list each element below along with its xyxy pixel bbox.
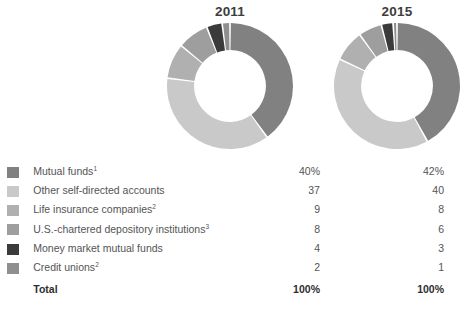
legend-row: Life insurance companies298 (0, 200, 453, 219)
total-value-2011: 100% (215, 277, 327, 299)
legend-color-swatch (7, 186, 19, 197)
value-2015: 3 (333, 239, 453, 258)
value-2011: 4 (215, 239, 327, 258)
legend-label: Other self-directed accounts (33, 181, 214, 200)
legend-color-swatch (7, 205, 19, 216)
legend-label: Mutual funds1 (33, 162, 214, 181)
value-2015: 8 (333, 200, 453, 219)
value-2015: 6 (333, 220, 453, 239)
legend-swatch-cell (0, 181, 33, 200)
donut-segment (334, 60, 427, 149)
total-value-2015: 100% (333, 277, 453, 299)
legend-label: Credit unions2 (33, 258, 214, 277)
legend-color-swatch (7, 224, 19, 235)
total-label: Total (33, 277, 214, 299)
legend-row: Money market mutual funds43 (0, 239, 453, 258)
legend-table-body: Mutual funds140%42%Other self-directed a… (0, 162, 453, 299)
value-2011: 40% (215, 162, 327, 181)
footnote-marker: 2 (95, 261, 99, 268)
value-2015: 42% (333, 162, 453, 181)
legend-color-swatch (7, 244, 19, 255)
donut-segment (394, 23, 397, 50)
donut-charts-row: 2011 2015 (0, 0, 453, 160)
donut-chart-2011: 2011 (155, 4, 305, 156)
legend-swatch-cell (0, 258, 33, 277)
donut-segment (167, 79, 266, 149)
footnote-marker: 3 (205, 222, 209, 229)
legend-color-swatch (7, 263, 19, 274)
legend-swatch-cell (0, 239, 33, 258)
legend-data-table: Mutual funds140%42%Other self-directed a… (0, 162, 453, 299)
legend-label: Money market mutual funds (33, 239, 214, 258)
legend-swatch-cell (0, 200, 33, 219)
value-2011: 37 (215, 181, 327, 200)
value-2011: 2 (215, 258, 327, 277)
legend-label: Life insurance companies2 (33, 200, 214, 219)
donut-chart-2015: 2015 (322, 4, 464, 156)
donut-graphic-2011 (164, 20, 296, 152)
total-swatch-spacer (0, 277, 33, 299)
legend-swatch-cell (0, 162, 33, 181)
legend-swatch-cell (0, 220, 33, 239)
value-2011: 9 (215, 200, 327, 219)
legend-label: U.S.-chartered depository institutions3 (33, 220, 214, 239)
legend-color-swatch (7, 167, 19, 178)
footnote-marker: 1 (93, 165, 97, 172)
legend-row: Mutual funds140%42% (0, 162, 453, 181)
donut-svg-container-2015 (322, 20, 464, 152)
footnote-marker: 2 (152, 203, 156, 210)
value-2015: 40 (333, 181, 453, 200)
chart-title-2011: 2011 (155, 4, 305, 20)
donut-segment (231, 23, 293, 136)
donut-graphic-2015 (331, 20, 463, 152)
legend-row: U.S.-chartered depository institutions38… (0, 220, 453, 239)
legend-row: Credit unions221 (0, 258, 453, 277)
legend-row: Other self-directed accounts3740 (0, 181, 453, 200)
donut-svg-container-2011 (155, 20, 305, 152)
value-2011: 8 (215, 220, 327, 239)
value-2015: 1 (333, 258, 453, 277)
chart-title-2015: 2015 (322, 4, 464, 20)
legend-total-row: Total100%100% (0, 277, 453, 299)
